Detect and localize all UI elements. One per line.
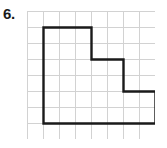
grid-polygon-svg xyxy=(27,11,155,139)
problem-number-label: 6. xyxy=(3,6,15,21)
figure-panel: 6. xyxy=(0,0,167,148)
grid-figure xyxy=(27,11,155,139)
